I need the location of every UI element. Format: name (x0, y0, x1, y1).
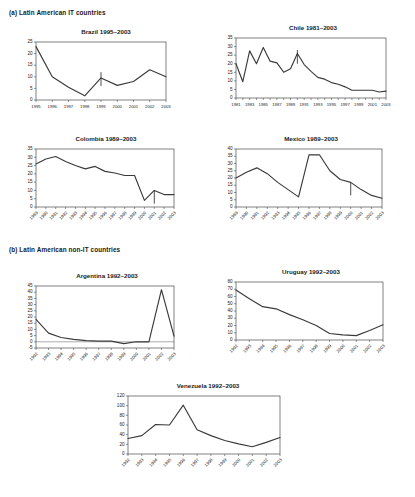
x-tick-label: 2003 (161, 104, 171, 109)
chart-svg-colombia: 0510152025303519891990199119921993199419… (16, 145, 180, 237)
plot-area-argentina: -505101520253035404519921993199419951996… (16, 282, 180, 378)
y-tick-label: 30 (227, 315, 233, 320)
x-tick-label: 2002 (364, 210, 375, 221)
y-tick-label: 25 (227, 52, 233, 57)
x-tick-label: 1999 (333, 210, 344, 221)
chart-panel-chile: Chile 1981–20030510152025303519811983198… (216, 24, 410, 120)
data-series-line (36, 290, 174, 344)
x-tick-label: 1995 (88, 210, 99, 221)
x-tick-label: 2003 (273, 457, 284, 468)
x-tick-label: 1998 (322, 210, 333, 221)
chart-title-chile: Chile 1981–2003 (216, 24, 410, 31)
y-tick-label: 10 (227, 78, 233, 83)
y-tick-label: 10 (227, 190, 233, 195)
x-tick-label: 1994 (148, 457, 159, 468)
x-tick-label: 1996 (302, 210, 313, 221)
y-tick-label: 0 (230, 204, 233, 209)
y-tick-label: 35 (27, 296, 33, 301)
x-tick-label: 1992 (58, 210, 69, 221)
x-tick-label: 1990 (38, 210, 49, 221)
x-tick-label: 2001 (129, 104, 139, 109)
x-tick-label: 1994 (54, 351, 65, 362)
plot-area-brazil: 0510152025199519961997199819992000200120… (16, 38, 172, 112)
chart-panel-brazil: Brazil 1995–2003051015202519951996199719… (16, 28, 196, 120)
x-tick-label: 1994 (281, 210, 292, 221)
chart-title-mexico: Mexico 1989–2003 (216, 135, 406, 142)
plot-frame (36, 42, 166, 100)
x-tick-label: 1999 (127, 210, 138, 221)
x-tick-label: 1997 (190, 457, 201, 468)
x-tick-label: 1991 (300, 102, 310, 107)
x-tick-label: 1995 (269, 343, 280, 354)
y-tick-label: 25 (227, 168, 233, 173)
x-tick-label: 2001 (141, 351, 152, 362)
x-tick-label: 1993 (242, 343, 253, 354)
x-tick-label: 2002 (362, 343, 373, 354)
y-tick-label: 15 (27, 320, 33, 325)
y-tick-label: 40 (119, 432, 125, 437)
x-tick-label: 2003 (375, 210, 386, 221)
chart-title-colombia: Colombia 1989–2003 (16, 135, 196, 142)
y-tick-label: 25 (27, 308, 33, 313)
x-tick-label: 1999 (354, 102, 364, 107)
x-tick-label: 1989 (29, 210, 40, 221)
x-tick-label: 1995 (31, 104, 41, 109)
plot-frame (236, 149, 382, 207)
y-tick-label: -5 (28, 345, 33, 350)
x-tick-label: 1995 (291, 210, 302, 221)
x-tick-label: 1992 (29, 351, 40, 362)
x-tick-label: 1999 (322, 343, 333, 354)
y-tick-label: 60 (119, 422, 125, 427)
x-tick-label: 2000 (129, 351, 140, 362)
y-tick-label: 20 (27, 51, 33, 56)
x-tick-label: 1996 (176, 457, 187, 468)
chart-title-brazil: Brazil 1995–2003 (16, 28, 196, 35)
y-tick-label: 25 (27, 163, 33, 168)
y-tick-label: 10 (227, 330, 233, 335)
y-tick-label: 30 (27, 302, 33, 307)
x-tick-label: 2003 (167, 351, 178, 362)
chart-svg-chile: 0510152025303519811983198519871989199119… (216, 34, 392, 110)
chart-panel-mexico: Mexico 1989–2003051015202530354019891990… (216, 135, 406, 240)
x-tick-label: 2000 (335, 343, 346, 354)
x-tick-label: 1983 (245, 102, 255, 107)
plot-area-uruguay: 0102030405060708019921993199419951996199… (216, 278, 389, 370)
x-tick-label: 1998 (117, 210, 128, 221)
x-tick-label: 1995 (162, 457, 173, 468)
y-tick-label: 10 (27, 188, 33, 193)
plot-area-venezuela: 0204060801001201992199319941995199619971… (108, 392, 286, 484)
plot-frame (236, 38, 386, 98)
x-tick-label: 2001 (368, 102, 378, 107)
chart-svg-uruguay: 0102030405060708019921993199419951996199… (216, 278, 389, 370)
x-tick-label: 1997 (312, 210, 323, 221)
y-tick-label: 120 (117, 393, 125, 398)
x-tick-label: 2000 (113, 104, 123, 109)
y-tick-label: 5 (230, 87, 233, 92)
chart-title-uruguay: Uruguay 1992–2003 (216, 268, 406, 275)
x-tick-label: 1993 (270, 210, 281, 221)
section-heading-a: (a) Latin American IT countries (9, 9, 106, 16)
x-tick-label: 2003 (376, 343, 387, 354)
data-series-line (236, 155, 382, 199)
x-tick-label: 1996 (79, 351, 90, 362)
x-tick-label: 1992 (121, 457, 132, 468)
x-tick-label: 2001 (245, 457, 256, 468)
y-tick-label: 20 (227, 323, 233, 328)
x-tick-label: 2002 (154, 351, 165, 362)
y-tick-label: 20 (27, 171, 33, 176)
y-tick-label: 0 (30, 97, 33, 102)
x-tick-label: 1991 (249, 210, 260, 221)
y-tick-label: 0 (230, 337, 233, 342)
x-tick-label: 1999 (116, 351, 127, 362)
x-tick-label: 1997 (295, 343, 306, 354)
y-tick-label: 30 (227, 161, 233, 166)
y-tick-label: 30 (27, 155, 33, 160)
x-tick-label: 2001 (354, 210, 365, 221)
y-tick-label: 20 (227, 61, 233, 66)
x-tick-label: 1981 (231, 102, 241, 107)
x-tick-label: 1995 (66, 351, 77, 362)
y-tick-label: 70 (227, 286, 233, 291)
y-tick-label: 50 (227, 301, 233, 306)
x-tick-label: 1997 (107, 210, 118, 221)
y-tick-label: 80 (119, 413, 125, 418)
